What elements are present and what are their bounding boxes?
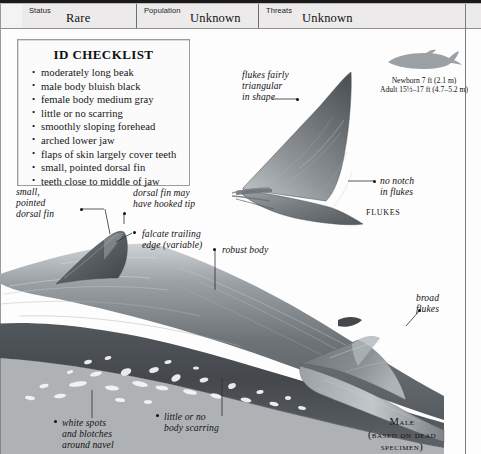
population-field: Population Unknown [137, 4, 259, 28]
illustration-area: ID CHECKLIST moderately long beak male b… [0, 28, 481, 454]
annotation-line: in flukes [380, 186, 414, 197]
checklist-item: female body medium gray [32, 93, 189, 107]
checklist-item: male body bluish black [32, 80, 189, 94]
status-field: Status Rare [22, 4, 137, 28]
checklist-item: little or no scarring [32, 107, 189, 121]
size-note: Newborn 7 ft (2.1 m) Adult 15½–17 ft (4.… [372, 76, 476, 95]
annotation-line: body scarring [164, 422, 219, 433]
size-newborn: Newborn 7 ft (2.1 m) [372, 76, 476, 85]
annotation-small-pointed-dorsal: small, pointed dorsal fin [16, 186, 54, 219]
checklist-item: small, pointed dorsal fin [32, 161, 189, 175]
annotation-flukes-triangular: flukes fairly triangular in shape [242, 69, 289, 102]
checklist-item: arched lower jaw [32, 134, 189, 148]
leader-dot [373, 180, 376, 183]
annotation-line: edge (variable) [142, 239, 202, 250]
annotation-hooked-tip: dorsal fin may have hooked tip [133, 187, 195, 209]
id-checklist-panel: ID CHECKLIST moderately long beak male b… [17, 39, 190, 186]
checklist-item: smoothly sloping forehead [32, 120, 189, 134]
annotation-line: small, [16, 186, 54, 197]
status-label: Status [29, 6, 51, 15]
annotation-line: flukes fairly [242, 69, 289, 80]
annotation-line: falcate trailing [142, 228, 202, 239]
male-caption: Male (based on dead specimen) [344, 416, 460, 454]
annotation-no-notch: no notch in flukes [380, 175, 414, 197]
flukes-caption: Flukes [366, 205, 400, 217]
leader-dot [123, 212, 126, 215]
population-value: Unknown [190, 11, 241, 26]
annotation-no-body-scarring: little or no body scarring [164, 411, 219, 433]
annotation-line: in shape [242, 91, 289, 102]
threats-label: Threats [266, 6, 292, 15]
threats-field: Threats Unknown [259, 4, 465, 28]
species-id-plate: Status Rare Population Unknown Threats U… [0, 0, 481, 454]
annotation-line: broad [416, 292, 439, 303]
annotation-line: triangular [242, 80, 289, 91]
status-bar-gutter [0, 4, 23, 28]
annotation-robust-body: robust body [222, 244, 268, 255]
id-checklist-title: ID CHECKLIST [18, 40, 189, 66]
annotation-line: dorsal fin [16, 208, 54, 219]
annotation-falcate-edge: falcate trailing edge (variable) [142, 228, 202, 250]
leader-dot [80, 208, 83, 211]
navel-white-spots [25, 355, 307, 410]
male-caption-sub1: (based on dead [344, 429, 460, 442]
annotation-line: white spots [62, 417, 114, 428]
annotation-line: and blotches [62, 428, 114, 439]
checklist-item: flaps of skin largely cover teeth [32, 148, 189, 162]
leader-dot [213, 248, 216, 251]
size-silhouette-icon [386, 48, 464, 74]
leader-dot [133, 231, 136, 234]
male-caption-sub2: specimen) [344, 441, 460, 454]
threats-value: Unknown [302, 11, 353, 26]
population-label: Population [144, 6, 180, 15]
size-adult: Adult 15½–17 ft (4.7–5.2 m) [372, 85, 476, 94]
leader-dot [418, 309, 421, 312]
checklist-item: moderately long beak [32, 66, 189, 80]
annotation-line: little or no [164, 411, 219, 422]
male-caption-title: Male [344, 416, 460, 429]
annotation-line: pointed [16, 197, 54, 208]
annotation-line: around navel [62, 439, 114, 450]
leader-dot [296, 98, 299, 101]
annotation-white-spots: white spots and blotches around navel [62, 417, 114, 450]
annotation-line: have hooked tip [133, 198, 195, 209]
status-value: Rare [66, 11, 90, 26]
leader-dot [156, 414, 159, 417]
annotation-line: robust body [222, 244, 268, 255]
annotation-line: no notch [380, 175, 414, 186]
annotation-line: dorsal fin may [133, 187, 195, 198]
leader-dot [54, 420, 57, 423]
id-checklist-items: moderately long beak male body bluish bl… [18, 66, 189, 188]
